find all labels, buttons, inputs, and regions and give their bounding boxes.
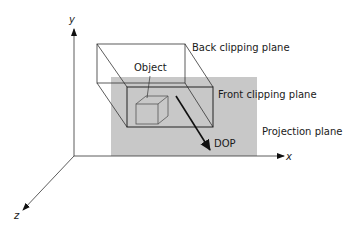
dop-label: DOP bbox=[214, 138, 236, 149]
back-clipping-plane-label: Back clipping plane bbox=[192, 42, 290, 53]
z-axis bbox=[23, 156, 74, 210]
object-label: Object bbox=[134, 62, 167, 73]
front-clipping-plane-label: Front clipping plane bbox=[218, 89, 317, 100]
parallel-projection-diagram: y x z Object Back clipping plane Front c… bbox=[0, 0, 351, 227]
x-axis-label: x bbox=[285, 151, 292, 162]
projection-plane-label: Projection plane bbox=[262, 126, 342, 137]
y-axis-label: y bbox=[68, 14, 76, 25]
z-axis-label: z bbox=[13, 210, 20, 221]
